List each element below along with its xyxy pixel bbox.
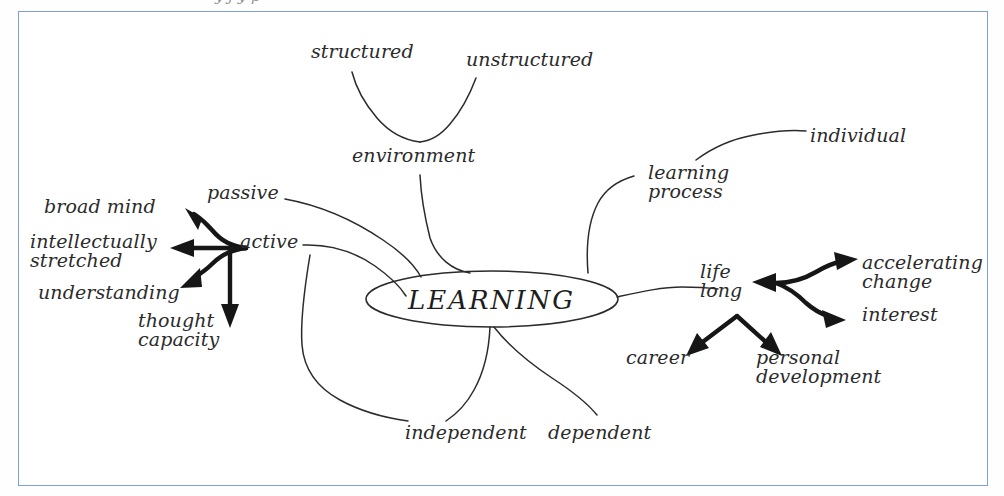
node-passive: passive xyxy=(207,183,279,203)
node-dependent: dependent xyxy=(548,423,651,443)
node-personal-development: personal development xyxy=(756,348,881,387)
mindmap-canvas: y j y p .ln { fill:none; stroke:#2b2b2b;… xyxy=(0,0,1004,496)
arrow-active-understanding xyxy=(194,248,246,278)
node-understanding: understanding xyxy=(38,283,180,303)
edge-active-central xyxy=(303,245,406,296)
arrow-lifelong-accelerating-change xyxy=(776,262,840,283)
arrowhead-accelerating-change xyxy=(834,252,858,270)
arrowhead-intellectually-stretched xyxy=(170,239,194,257)
arrow-lifelong-interest xyxy=(776,283,828,316)
central-node-label: LEARNING xyxy=(408,285,575,315)
edge-environment-central xyxy=(420,175,470,273)
node-environment: environment xyxy=(352,146,475,166)
node-interest: interest xyxy=(862,305,938,325)
arrowhead-understanding xyxy=(180,268,202,288)
node-learning-process: learning process xyxy=(648,163,729,202)
edge-dependent-central xyxy=(494,327,597,415)
node-life-long: life long xyxy=(700,262,742,301)
node-independent: independent xyxy=(405,423,527,443)
node-structured: structured xyxy=(311,42,414,62)
arrowhead-broad-mind xyxy=(185,208,202,230)
node-active: active xyxy=(240,232,298,252)
node-intellectually-stretched: intellectually stretched xyxy=(30,232,157,271)
arrow-lifelong-career xyxy=(700,316,737,344)
node-thought-capacity: thought capacity xyxy=(138,311,219,350)
edge-structured-environment xyxy=(352,72,420,142)
arrow-active-thought-capacity xyxy=(230,248,246,310)
arrowhead-lifelong xyxy=(752,273,776,292)
arrowhead-interest xyxy=(822,310,846,328)
node-accelerating-change: accelerating change xyxy=(862,253,983,292)
node-individual: individual xyxy=(810,126,906,146)
edge-learning-process-individual xyxy=(696,131,806,160)
edge-passive-central xyxy=(285,199,421,277)
arrow-lifelong-personal-development xyxy=(737,316,768,344)
edge-unstructured-environment xyxy=(420,78,476,142)
arrowhead-thought-capacity xyxy=(221,304,239,328)
node-career: career xyxy=(626,348,689,368)
node-unstructured: unstructured xyxy=(466,50,593,70)
edge-independent-central xyxy=(446,327,490,421)
node-broad-mind: broad mind xyxy=(44,197,156,217)
edge-learning-process-central xyxy=(587,176,634,273)
arrowhead-career xyxy=(686,333,709,356)
